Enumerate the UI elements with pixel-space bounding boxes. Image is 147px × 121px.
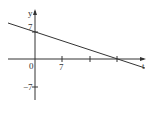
chart-canvas bbox=[0, 0, 147, 121]
y-axis-label: y bbox=[28, 9, 33, 18]
y-tick-label-7: 7 bbox=[28, 23, 33, 32]
x-axis-label: t bbox=[142, 62, 145, 71]
y-tick-label-neg7: −7 bbox=[23, 83, 33, 92]
x-tick-label-7: 7 bbox=[59, 63, 64, 72]
y-axis-arrow-icon bbox=[33, 9, 37, 15]
origin-label: 0 bbox=[29, 62, 34, 71]
